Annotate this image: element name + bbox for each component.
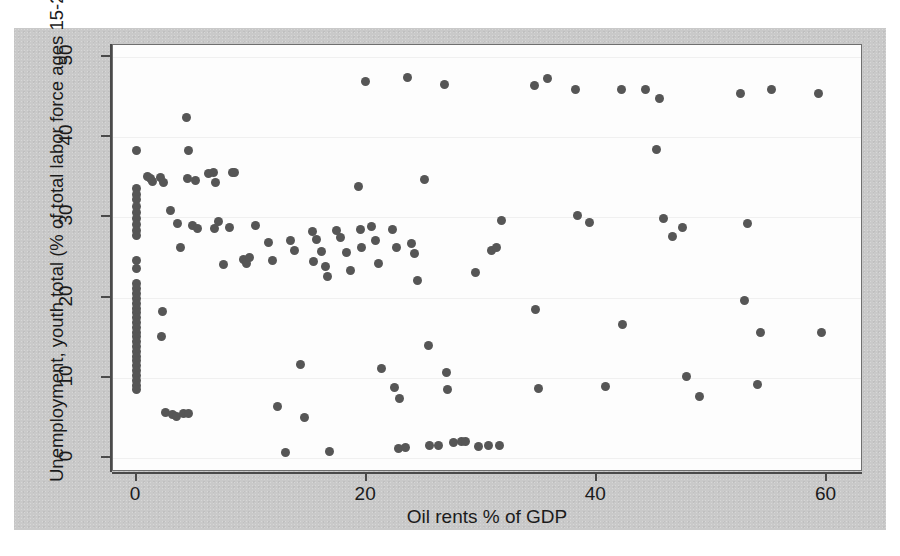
y-tick-mark — [101, 296, 110, 298]
data-point — [668, 232, 677, 241]
data-point — [132, 264, 141, 273]
data-point — [374, 259, 383, 268]
data-point — [357, 243, 366, 252]
data-point — [474, 442, 483, 451]
data-point — [286, 236, 295, 245]
data-point — [317, 247, 326, 256]
x-tick-mark — [595, 472, 597, 481]
data-point — [585, 218, 594, 227]
data-point — [132, 146, 141, 155]
data-point — [743, 219, 752, 228]
data-point — [695, 392, 704, 401]
data-point — [225, 223, 234, 232]
data-point — [659, 214, 668, 223]
figure-page: 01020304050 0204060 Oil rents % of GDP U… — [0, 0, 900, 556]
data-point — [308, 227, 317, 236]
data-point — [420, 175, 429, 184]
data-point — [214, 217, 223, 226]
data-point — [173, 219, 182, 228]
data-point — [767, 85, 776, 94]
data-point — [264, 238, 273, 247]
data-point — [356, 225, 365, 234]
data-point — [652, 145, 661, 154]
data-point — [471, 268, 480, 277]
data-point — [543, 74, 552, 83]
data-point — [530, 81, 539, 90]
data-point — [534, 384, 543, 393]
plot-area — [112, 44, 862, 471]
data-point — [461, 437, 470, 446]
data-point — [678, 223, 687, 232]
data-point — [736, 89, 745, 98]
data-point — [296, 360, 305, 369]
data-point — [309, 257, 318, 266]
data-point — [440, 80, 449, 89]
data-point — [300, 413, 309, 422]
data-point — [401, 443, 410, 452]
data-point — [132, 385, 141, 394]
data-point — [814, 89, 823, 98]
data-point — [193, 224, 202, 233]
data-point — [251, 221, 260, 230]
data-point — [573, 211, 582, 220]
data-point — [617, 85, 626, 94]
data-point — [371, 236, 380, 245]
data-point — [191, 176, 200, 185]
data-point — [484, 441, 493, 450]
data-point — [312, 235, 321, 244]
data-point — [209, 168, 218, 177]
data-point — [492, 243, 501, 252]
gridline — [113, 458, 861, 459]
data-point — [618, 320, 627, 329]
data-point — [377, 364, 386, 373]
data-point — [413, 276, 422, 285]
data-point — [273, 402, 282, 411]
data-point — [817, 328, 826, 337]
data-point — [424, 341, 433, 350]
data-point — [390, 383, 399, 392]
data-point — [176, 243, 185, 252]
data-point — [367, 222, 376, 231]
data-point — [682, 372, 691, 381]
data-point — [497, 216, 506, 225]
data-point — [166, 206, 175, 215]
data-point — [601, 382, 610, 391]
data-point — [325, 447, 334, 456]
x-axis-title: Oil rents % of GDP — [112, 506, 862, 528]
data-point — [407, 239, 416, 248]
y-tick-mark — [101, 135, 110, 137]
data-point — [495, 441, 504, 450]
data-point — [342, 248, 351, 257]
y-tick-mark — [101, 376, 110, 378]
gridline — [113, 378, 861, 379]
x-tick-label: 60 — [795, 483, 855, 505]
data-point — [346, 266, 355, 275]
data-point — [184, 409, 193, 418]
data-point — [434, 441, 443, 450]
y-tick-mark — [101, 456, 110, 458]
data-point — [323, 272, 332, 281]
x-tick-mark — [825, 472, 827, 481]
data-point — [395, 394, 404, 403]
x-axis-line — [112, 472, 862, 474]
data-point — [182, 113, 191, 122]
data-point — [290, 246, 299, 255]
data-point — [354, 182, 363, 191]
data-point — [132, 231, 141, 240]
data-point — [281, 448, 290, 457]
data-point — [268, 256, 277, 265]
data-point — [425, 441, 434, 450]
data-point — [159, 178, 168, 187]
data-point — [361, 77, 370, 86]
data-point — [442, 368, 451, 377]
data-point — [211, 178, 220, 187]
x-tick-mark — [135, 472, 137, 481]
data-point — [245, 253, 254, 262]
data-point — [184, 146, 193, 155]
data-point — [392, 243, 401, 252]
data-point — [410, 249, 419, 258]
y-tick-mark — [101, 55, 110, 57]
x-tick-label: 40 — [565, 483, 625, 505]
x-tick-label: 20 — [335, 483, 395, 505]
y-tick-mark — [101, 215, 110, 217]
